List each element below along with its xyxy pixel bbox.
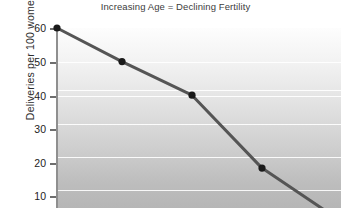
- y-tick-mark-10: [50, 196, 56, 198]
- y-tick-label-60: 60: [0, 22, 46, 34]
- y-tick-label-50: 50: [0, 56, 46, 68]
- gridline-50: [57, 62, 341, 63]
- y-tick-mark-20: [50, 163, 56, 165]
- gridline-20: [57, 157, 341, 158]
- gridline-40: [57, 90, 341, 91]
- gridline-10: [57, 190, 341, 191]
- y-tick-label-40: 40: [0, 90, 46, 102]
- y-tick-mark-50: [50, 62, 56, 64]
- gridline-40b: [57, 96, 341, 97]
- plot-area: [57, 28, 341, 208]
- y-tick-mark-40: [50, 96, 56, 98]
- gridline-30: [57, 124, 341, 125]
- y-tick-label-20: 20: [0, 157, 46, 169]
- y-tick-mark-30: [50, 129, 56, 131]
- y-axis-title-container: Deliveries per 100 women (%): [23, 0, 37, 137]
- y-tick-label-30: 30: [0, 123, 46, 135]
- y-tick-mark-60: [50, 28, 56, 30]
- fertility-line-chart-figure: Increasing Age = Declining Fertility Del…: [0, 0, 351, 208]
- y-tick-label-10: 10: [0, 190, 46, 202]
- chart-title: Increasing Age = Declining Fertility: [0, 1, 351, 13]
- y-axis-spine: [56, 28, 58, 208]
